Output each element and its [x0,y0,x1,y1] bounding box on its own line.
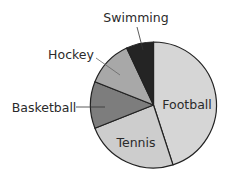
basketball-label: Basketball [12,100,77,115]
tennis-label: Tennis [115,135,155,150]
football-label: Football [162,97,211,112]
hockey-label: Hockey [48,47,94,62]
swimming-label: Swimming [103,10,168,25]
pie-chart: Swimming Hockey Basketball Tennis Footba… [0,0,233,180]
